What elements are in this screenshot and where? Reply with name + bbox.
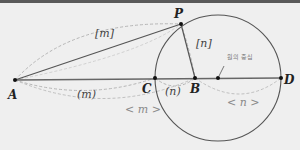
point-A [13,78,17,82]
point-center [216,76,220,80]
point-C [153,76,157,80]
label-AP-length: [m] [95,27,115,40]
label-P: P [173,7,184,21]
label-PB-length: [n] [196,37,212,50]
point-B [193,76,197,80]
point-D [279,76,283,80]
line-PB [181,24,195,78]
label-circle-center: 원의 중심 [227,53,253,61]
label-AB-length: < m > [125,103,161,116]
label-D: D [283,73,295,87]
label-AC-length: (m) [77,88,96,101]
label-CB-length: (n) [165,85,181,98]
geometry-diagram: A P C B D [m] [n] (m) (n) < m > < n > 원의… [0,0,300,150]
label-B: B [189,82,200,96]
label-BD-length: < n > [227,96,260,109]
arc-BD [195,78,281,94]
label-C: C [142,82,152,96]
line-AD [15,78,281,80]
point-P [179,22,183,26]
center-pointer [219,66,224,76]
label-A: A [7,88,17,102]
